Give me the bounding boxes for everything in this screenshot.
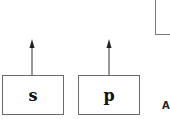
box-p: p	[78, 75, 140, 115]
box-s-label: s	[28, 86, 37, 105]
box-p-label: p	[103, 86, 114, 105]
box-s: s	[2, 75, 64, 115]
arrow-from-s	[30, 39, 35, 75]
box-top-right-partial	[155, 0, 170, 35]
arrow-from-p	[107, 39, 112, 75]
partial-label-a: A	[162, 100, 170, 111]
